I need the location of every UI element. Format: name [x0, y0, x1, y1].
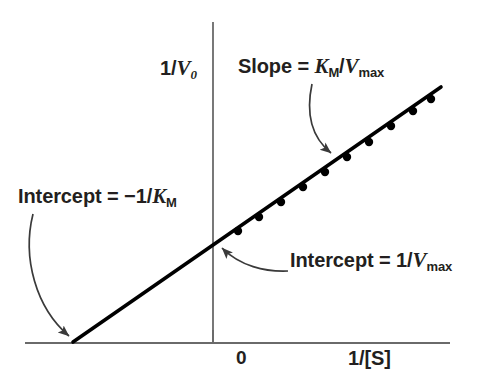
- x-intercept-annotation-label: Intercept = −1/KM: [18, 186, 177, 207]
- y-axis-label-prefix: 1/: [160, 57, 176, 79]
- slope-annotation-prefix: Slope =: [238, 55, 314, 77]
- x-intercept-annotation-arrow: [29, 214, 69, 336]
- data-point: [427, 95, 435, 103]
- slope-annotation-label: Slope = KM/Vmax: [238, 56, 384, 77]
- lineweaver-burk-figure: 1/V0 Slope = KM/Vmax Intercept = −1/KM I…: [0, 0, 488, 387]
- y-intercept-variable: V: [413, 248, 427, 272]
- data-point: [409, 107, 417, 115]
- x-intercept-subscript: M: [166, 195, 177, 210]
- origin-label: 0: [236, 348, 247, 367]
- slope-numerator-subscript: M: [328, 65, 339, 80]
- data-point: [343, 153, 351, 161]
- slope-denominator-subscript: max: [359, 65, 385, 80]
- y-axis-label-variable: V: [176, 56, 190, 80]
- slope-numerator-variable: K: [314, 54, 328, 78]
- data-point: [234, 227, 242, 235]
- x-intercept-prefix: Intercept = −1/: [18, 185, 152, 207]
- data-point: [277, 198, 285, 206]
- data-point: [255, 213, 263, 221]
- data-point-group: [234, 95, 435, 235]
- y-intercept-subscript: max: [426, 259, 452, 274]
- x-intercept-variable: K: [152, 184, 166, 208]
- data-point: [321, 168, 329, 176]
- slope-denominator-variable: V: [345, 54, 359, 78]
- x-axis-label: 1/[S]: [348, 348, 391, 368]
- y-intercept-annotation-arrow: [222, 248, 288, 271]
- y-axis-label: 1/V0: [160, 58, 197, 79]
- y-intercept-annotation-label: Intercept = 1/Vmax: [290, 250, 452, 271]
- y-axis-label-subscript: 0: [190, 67, 196, 82]
- y-intercept-prefix: Intercept = 1/: [290, 249, 413, 271]
- slope-annotation-arrow: [309, 84, 331, 153]
- data-point: [365, 138, 373, 146]
- data-point: [387, 122, 395, 130]
- data-point: [299, 183, 307, 191]
